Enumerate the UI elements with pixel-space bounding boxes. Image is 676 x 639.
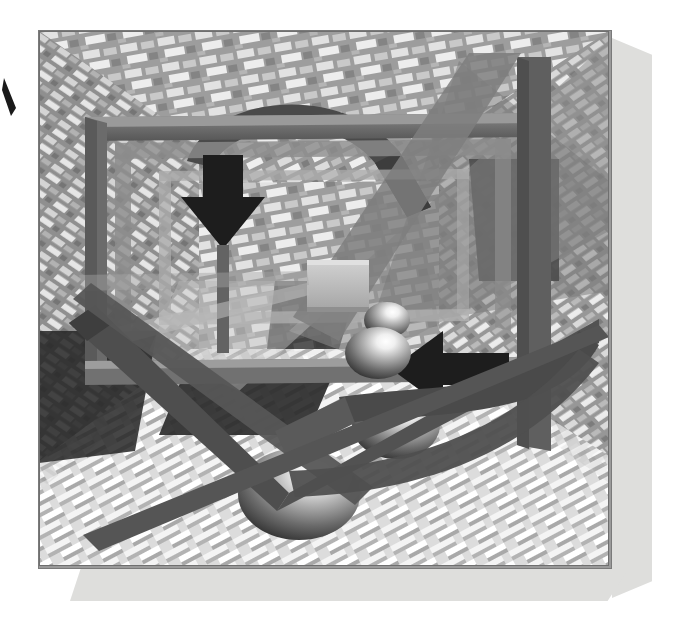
artwork-scene [39, 31, 609, 566]
left-edge-tick-icon [2, 78, 22, 118]
receding-frame-right [457, 169, 469, 317]
right-shadow-plate [612, 38, 652, 598]
inner-frame-right [495, 139, 511, 331]
artwork-frame [38, 30, 612, 569]
bottom-shadow-plate [70, 567, 630, 601]
down-arrow-stem [217, 245, 229, 353]
artwork-canvas: Grayscale 3D abstract illustration of a … [0, 0, 676, 639]
receding-frame-left [159, 171, 171, 321]
sphere-2 [345, 327, 411, 379]
floating-cube [307, 260, 369, 312]
